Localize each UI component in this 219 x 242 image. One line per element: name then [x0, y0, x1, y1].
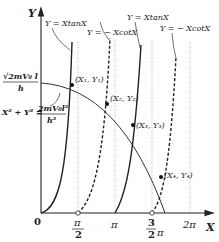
open-point-pi-half [76, 211, 80, 215]
y-tick-num: √2mV₀ l [3, 71, 38, 81]
point-3 [131, 123, 135, 127]
label-cot-2: Y = − XcotX [160, 24, 211, 33]
leader-tan-1 [52, 28, 70, 50]
tick-three-pi-half-den: 2 [148, 229, 155, 240]
point-1-label: (X₁, Y₁) [75, 75, 104, 84]
x-axis-label: X [205, 221, 215, 234]
tick-pi-half-den: 2 [75, 229, 82, 240]
origin-label: 0 [34, 216, 41, 227]
tick-two-pi: 2π [182, 219, 196, 230]
tick-three-pi-half-num: 3 [148, 217, 155, 228]
label-tan-1: Y = XtanX [45, 19, 87, 28]
point-2-label: (X₂, Y₂) [110, 94, 139, 103]
label-cot-1: Y = − XcotX [87, 28, 138, 37]
y-tick-den: h [18, 83, 24, 93]
tick-pi-half-num: π [73, 217, 81, 228]
y-axis-arrow-icon [39, 8, 44, 16]
point-4 [159, 175, 163, 179]
circle-eq-num: 2mV₀l² [37, 103, 69, 113]
tick-three-pi-half-suffix: π [156, 227, 164, 238]
leader-cot-2 [172, 33, 176, 58]
tick-pi: π [110, 219, 118, 230]
point-1 [70, 83, 74, 87]
circle-eq-den: h² [47, 115, 57, 125]
circle-eq-lhs: X² + Y² = [1, 107, 43, 117]
tan-curve-1 [41, 42, 72, 213]
neg-cot-curve-1 [78, 38, 110, 213]
point-3-label: (X₃, Y₃) [136, 121, 165, 130]
point-4-label: (X₄, Y₄) [164, 171, 193, 180]
open-point-three-pi-half [150, 211, 154, 215]
finite-well-diagram: Y X 0 π 2 π 3 2 π 2π √2mV₀ l h X² + Y² =… [0, 0, 219, 242]
label-tan-2: Y = XtanX [127, 13, 169, 22]
y-axis-label: Y [28, 7, 37, 20]
x-axis-arrow-icon [205, 211, 213, 216]
point-2 [105, 102, 109, 106]
